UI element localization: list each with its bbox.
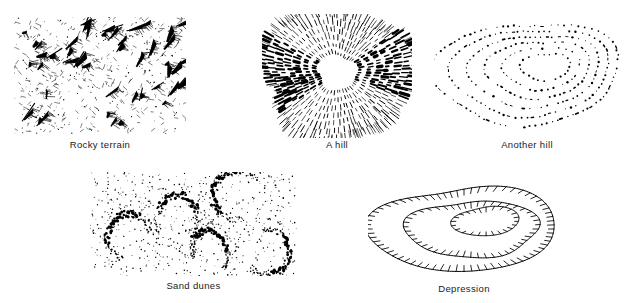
depression-caption: Depression <box>368 283 560 295</box>
depression-artwork <box>368 178 560 280</box>
terrain-symbols-figure: Rocky terrain A hill Another hill Sand d… <box>0 0 632 303</box>
panel-depression: Depression <box>0 0 632 303</box>
